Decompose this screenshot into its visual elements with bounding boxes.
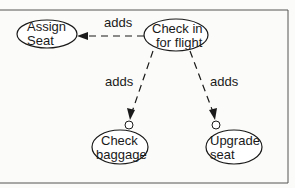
edge-label: adds <box>104 15 133 30</box>
arrowhead-icon <box>77 32 88 40</box>
use-case-label: baggage <box>96 147 147 162</box>
arrowhead-icon <box>209 108 217 120</box>
edge-label: adds <box>105 74 134 89</box>
use-case-label: Assign <box>27 19 66 34</box>
use-case-label: Check <box>101 133 138 148</box>
use-case-label: Seat <box>27 33 54 48</box>
use-case-diagram: Assign Seat Check in for flight adds add… <box>0 0 295 188</box>
use-case-label: seat <box>210 147 235 162</box>
use-case-check-in[interactable]: Check in for flight <box>144 19 208 51</box>
use-case-label: Check in <box>152 21 203 36</box>
extension-point-icon <box>125 121 133 129</box>
extension-point-icon <box>212 121 220 129</box>
edge-adds-upgrade: adds <box>190 51 239 129</box>
edge-adds-assign: adds <box>77 15 144 40</box>
arrowhead-icon <box>127 108 135 120</box>
edge-adds-baggage: adds <box>105 51 153 129</box>
edge-label: adds <box>210 74 239 89</box>
use-case-label: for flight <box>156 35 203 50</box>
use-case-check-baggage[interactable]: Check baggage <box>92 130 148 164</box>
use-case-upgrade-seat[interactable]: Upgrade seat <box>206 130 262 164</box>
use-case-label: Upgrade <box>210 133 260 148</box>
use-case-assign-seat[interactable]: Assign Seat <box>17 19 77 48</box>
